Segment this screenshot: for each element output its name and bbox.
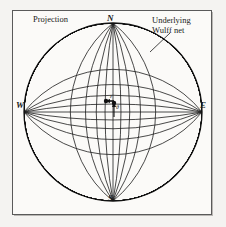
theta-label: θ <box>116 104 119 111</box>
wulff-net-label: Underlying Wulff net <box>152 16 191 35</box>
compass-label-east: E <box>200 100 206 110</box>
compass-label-north: N <box>107 13 114 23</box>
projection-label: Projection <box>33 15 68 25</box>
compass-label-west: W <box>16 100 24 110</box>
figure-canvas: Projection Underlying Wulff net N S W E … <box>0 0 226 227</box>
compass-label-south: S <box>108 193 113 203</box>
wulff-net-label-line2: Wulff net <box>152 26 191 36</box>
epsilon-label: ε <box>110 93 112 100</box>
net-interior <box>24 23 202 201</box>
